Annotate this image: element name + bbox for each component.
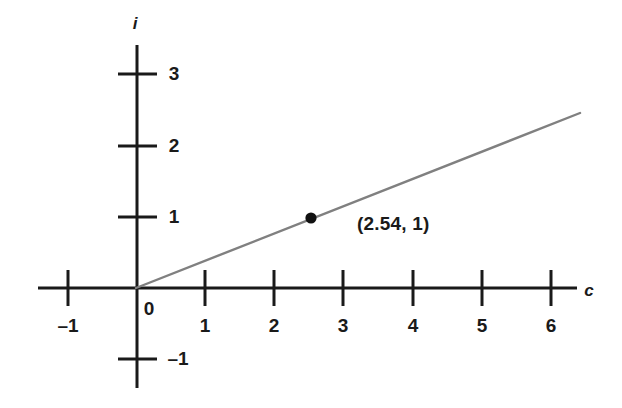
plot-canvas	[0, 0, 622, 408]
x-tick-label-2: 2	[269, 315, 280, 337]
x-tick-label--1: –1	[57, 315, 78, 337]
chart-figure: i c 0 –1 1 2 3 4 5 6 3 2 1 –1 (2.54, 1)	[0, 0, 622, 408]
data-point-annotation: (2.54, 1)	[357, 213, 430, 235]
x-tick-label-5: 5	[477, 315, 488, 337]
data-line-series-1	[136, 113, 580, 288]
x-tick-label-6: 6	[546, 315, 557, 337]
x-tick-label-3: 3	[338, 315, 349, 337]
x-tick-label-4: 4	[408, 315, 419, 337]
x-axis-label: c	[584, 281, 593, 301]
y-tick-label-1: 1	[169, 206, 180, 228]
x-tick-label-1: 1	[200, 315, 211, 337]
data-point-marker	[305, 212, 316, 223]
y-axis-label: i	[133, 14, 138, 34]
y-tick-label--1: –1	[167, 348, 188, 370]
y-tick-label-2: 2	[169, 135, 180, 157]
origin-tick-label: 0	[144, 298, 155, 320]
y-tick-label-3: 3	[169, 63, 180, 85]
